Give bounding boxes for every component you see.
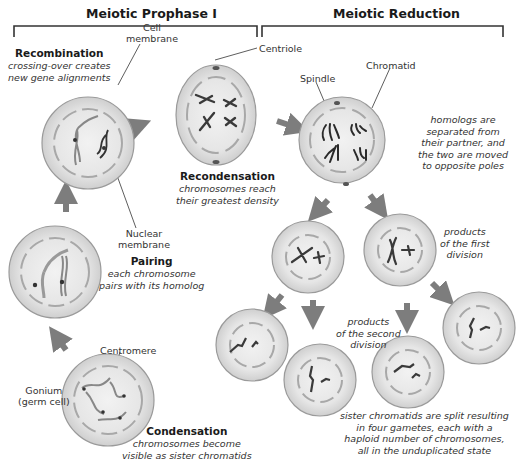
header-meiotic-prophase: Meiotic Prophase I — [86, 6, 217, 21]
cell-pairing — [9, 226, 101, 318]
condensation-title: Condensation — [122, 425, 252, 438]
label-spindle: Spindle — [300, 73, 335, 84]
header-meiotic-reduction: Meiotic Reduction — [333, 6, 460, 21]
arrow-separation-to-cell-a — [316, 200, 328, 213]
arrow-recondensation-to-separation — [277, 121, 298, 128]
cell-first-division-a — [272, 221, 344, 293]
arrow-cell-b-to-gamete-4 — [432, 283, 446, 297]
caption-pairing: Pairing each chromosome pairs with its h… — [99, 255, 204, 291]
cell-first-division-b — [364, 214, 436, 286]
caption-recondensation: Recondensation chromosomes reach their g… — [176, 170, 279, 206]
cell-recombination — [42, 97, 134, 189]
recombination-title: Recombination — [8, 47, 110, 60]
cell-recondensation — [176, 65, 256, 165]
label-chromatid: Chromatid — [366, 60, 416, 71]
label-centromere: Centromere — [100, 345, 156, 356]
reduction-bracket — [262, 26, 503, 37]
cell-separation — [299, 97, 385, 186]
cell-gamete-1 — [216, 309, 288, 381]
arrow-cell-a-to-gamete-1 — [270, 295, 282, 310]
meiosis-diagram: Meiotic Prophase I Meiotic Reduction Rec… — [0, 0, 519, 463]
recondensation-title: Recondensation — [176, 170, 279, 183]
cell-gamete-2 — [284, 344, 356, 416]
caption-recombination: Recombination crossing-over creates new … — [8, 47, 110, 83]
caption-first-division: products of the first division — [440, 226, 490, 261]
label-cell-membrane: Cell membrane — [126, 22, 178, 44]
label-gonium: Gonium (germ cell) — [18, 385, 70, 407]
arrow-condensation-to-pairing — [56, 336, 66, 350]
label-centriole: Centriole — [259, 43, 302, 54]
caption-gametes: sister chromatids are split resulting in… — [340, 410, 509, 456]
caption-condensation: Condensation chromosomes become visible … — [122, 425, 252, 461]
caption-second-division: products of the second division — [336, 316, 401, 351]
label-nuclear-membrane: Nuclear membrane — [118, 228, 170, 250]
caption-separation: homologs are separated from their partne… — [418, 114, 508, 172]
pairing-title: Pairing — [99, 255, 204, 268]
arrow-separation-to-cell-b — [370, 195, 381, 210]
cell-gamete-4 — [443, 292, 515, 364]
